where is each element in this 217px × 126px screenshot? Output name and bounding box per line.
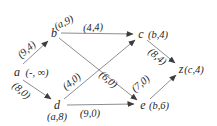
node-e: e [140,99,145,111]
edge-b-c [61,33,133,34]
node-annotation-a: (-, ∞) [25,68,48,79]
edge-label-b-c: (4,4) [83,22,104,34]
edge-e-z [150,75,176,99]
edge-label-d-e: (9,0) [80,108,101,120]
node-annotation-e: (b,6) [149,101,169,112]
node-c: c [138,28,143,40]
edge-d-e [67,104,134,105]
node-z: z [179,63,184,75]
node-annotation-c: (b,4) [148,30,168,41]
edge-b-e [59,38,137,100]
node-d: d [54,99,60,111]
node-annotation-z: (c,4) [184,65,204,76]
graph-figure: (9,4)(8,0)(4,4)(6,0)(4,0)(9,0)(8,4)(7,0)… [0,0,217,126]
node-a: a [14,66,20,78]
node-annotation-d: (a,8) [47,112,67,123]
